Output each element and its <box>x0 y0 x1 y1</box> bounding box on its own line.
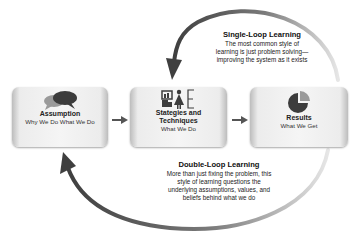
assumption-subtitle: Why We Do What We Do <box>12 118 108 126</box>
results-box: Results What We Get <box>250 87 348 147</box>
double-loop-line: underlying assumptions, values, and <box>154 186 284 194</box>
presentation-person-icon <box>161 89 197 109</box>
arrow-right-icon <box>112 116 128 124</box>
double-loop-title: Double-Loop Learning <box>154 160 284 170</box>
strategies-box: Stategies and Techniques What We Do <box>130 87 227 147</box>
single-loop-title: Single-Loop Learning <box>196 30 328 40</box>
double-loop-line: style of learning questions the <box>154 178 284 186</box>
strategies-title-line2: Techniques <box>130 117 227 125</box>
single-loop-arrowhead <box>166 58 182 80</box>
double-loop-note: Double-Loop Learning More than just fixi… <box>154 160 284 202</box>
arrow-right-icon <box>232 116 248 124</box>
double-loop-line: beliefs behind what we do <box>154 194 284 202</box>
strategies-title-line1: Stategies and <box>130 109 227 117</box>
strategies-subtitle: What We Do <box>130 125 227 133</box>
double-loop-line: More than just fixing the problem, this <box>154 170 284 178</box>
single-loop-line: improving the system as it exists <box>196 56 328 64</box>
assumption-title: Assumption <box>12 110 108 118</box>
single-loop-line: learning is just problem solving— <box>196 48 328 56</box>
assumption-box: Assumption Why We Do What We Do <box>12 87 108 147</box>
single-loop-line: The most common style of <box>196 40 328 48</box>
results-subtitle: What We Get <box>250 122 348 130</box>
single-loop-note: Single-Loop Learning The most common sty… <box>196 30 328 64</box>
results-title: Results <box>250 114 348 122</box>
speech-bubbles-icon <box>41 90 79 110</box>
pie-chart-icon <box>287 90 311 114</box>
